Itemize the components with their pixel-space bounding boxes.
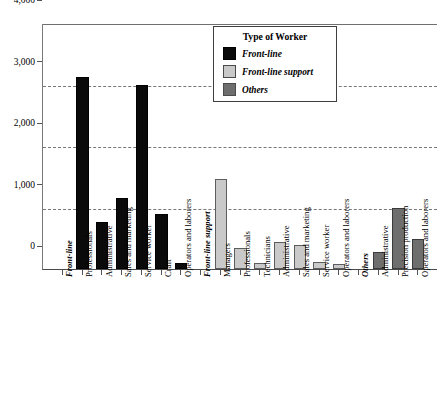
y-axis-tick: 0 bbox=[0, 241, 42, 251]
x-axis-tick-mark bbox=[417, 270, 418, 275]
x-axis-label-text: Sales and marketing bbox=[302, 207, 311, 277]
x-axis-tick-mark bbox=[319, 270, 320, 275]
x-axis-tick-mark bbox=[398, 270, 399, 275]
x-axis-label-text: Operators and laborers bbox=[421, 199, 430, 277]
y-axis: 01,0002,0003,0004,000 bbox=[0, 0, 42, 246]
legend-swatch-icon bbox=[223, 83, 236, 96]
x-axis-label-text: Operators and laborers bbox=[342, 199, 351, 277]
bar-chart: 01,0002,0003,0004,000 Front-lineProfessi… bbox=[0, 0, 446, 394]
x-axis-tick-mark bbox=[180, 270, 181, 275]
legend-item-label: Front-line support bbox=[242, 66, 313, 78]
y-axis-tick-label: 4,000 bbox=[14, 0, 35, 5]
x-axis-tick-mark bbox=[220, 270, 221, 275]
x-axis-label-text: Craft bbox=[164, 259, 173, 277]
x-axis-label-text: Technicians bbox=[263, 236, 272, 277]
x-axis-tick-mark bbox=[259, 270, 260, 275]
y-axis-tick-label: 1,000 bbox=[14, 180, 35, 190]
gridline bbox=[43, 147, 437, 148]
x-axis-ticks bbox=[42, 270, 437, 276]
x-axis-label-text: Administrative bbox=[282, 225, 291, 277]
x-axis-tick-mark bbox=[82, 270, 83, 275]
legend-item-label: Others bbox=[242, 84, 268, 96]
y-axis-tick: 2,000 bbox=[0, 118, 42, 128]
legend-swatch-icon bbox=[223, 47, 236, 60]
x-axis-label-text: Managers bbox=[223, 243, 232, 277]
legend-item-label: Front-line bbox=[242, 48, 282, 60]
y-axis-tick-label: 0 bbox=[30, 241, 35, 251]
x-axis-label-text: Professionals bbox=[85, 231, 94, 277]
x-axis-tick-mark bbox=[358, 270, 359, 275]
x-axis-label-text: Sales and marketing bbox=[124, 207, 133, 277]
y-axis-tick: 3,000 bbox=[0, 57, 42, 67]
x-axis-tick-mark bbox=[200, 270, 201, 275]
x-axis-tick-mark bbox=[101, 270, 102, 275]
x-axis-tick-mark bbox=[62, 270, 63, 275]
x-axis-label-text: Front-line support bbox=[203, 211, 212, 277]
legend-swatch-icon bbox=[223, 65, 236, 78]
x-axis-label-text: Precision production bbox=[401, 206, 410, 277]
x-axis-tick-mark bbox=[279, 270, 280, 275]
x-axis-labels: Front-lineProfessionalsAdministrativeSal… bbox=[42, 277, 437, 372]
x-axis-tick-mark bbox=[240, 270, 241, 275]
x-axis-label-text: Operators and laborers bbox=[184, 199, 193, 277]
x-axis-tick-mark bbox=[299, 270, 300, 275]
y-axis-tick-label: 3,000 bbox=[14, 57, 35, 67]
legend-title: Type of Worker bbox=[214, 32, 336, 42]
x-axis-tick-mark bbox=[338, 270, 339, 275]
y-axis-tick-label: 2,000 bbox=[14, 118, 35, 128]
x-axis-label-text: Administrative bbox=[105, 225, 114, 277]
x-axis-tick-mark bbox=[161, 270, 162, 275]
gridline bbox=[43, 24, 437, 25]
y-axis-tick-mark bbox=[37, 0, 42, 1]
y-axis-tick: 1,000 bbox=[0, 180, 42, 190]
x-axis-label-text: Service worker bbox=[144, 225, 153, 277]
gridline bbox=[43, 209, 437, 210]
x-axis-label-text: Professionals bbox=[243, 231, 252, 277]
x-axis-label-text: Others bbox=[361, 253, 370, 277]
x-axis-label-text: Front-line bbox=[65, 240, 74, 277]
x-axis-label-text: Service worker bbox=[322, 225, 331, 277]
x-axis-tick-mark bbox=[121, 270, 122, 275]
x-axis-tick-mark bbox=[378, 270, 379, 275]
legend: Type of Worker Front-lineFront-line supp… bbox=[213, 26, 337, 102]
x-axis-tick-mark bbox=[141, 270, 142, 275]
y-axis-tick: 4,000 bbox=[0, 0, 42, 5]
x-axis-label-text: Administrative bbox=[381, 225, 390, 277]
